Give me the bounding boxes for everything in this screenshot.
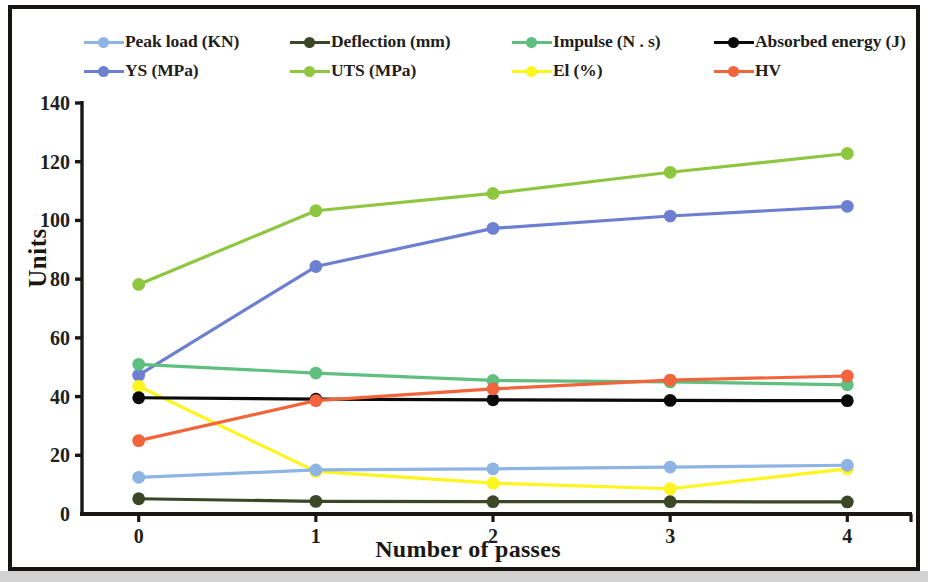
x-tick-label: 2 xyxy=(473,525,513,548)
data-point xyxy=(487,222,500,235)
page-background-strip xyxy=(0,571,928,582)
y-tick-label: 20 xyxy=(24,444,70,467)
data-point xyxy=(841,496,854,509)
x-tick-label: 4 xyxy=(827,525,867,548)
data-point xyxy=(487,495,500,508)
data-point xyxy=(132,492,145,505)
data-point xyxy=(309,394,322,407)
data-point xyxy=(132,278,145,291)
y-tick-label: 120 xyxy=(24,151,70,174)
x-tick-label: 0 xyxy=(119,525,159,548)
data-point xyxy=(841,147,854,160)
plot-area: Units Number of passes 02040608010012014… xyxy=(12,9,924,575)
data-point xyxy=(487,383,500,396)
series-ys-mpa xyxy=(132,200,853,382)
data-point xyxy=(664,166,677,179)
x-tick-label: 3 xyxy=(650,525,690,548)
data-point xyxy=(309,367,322,380)
data-point xyxy=(664,482,677,495)
series-deflection-mm xyxy=(132,492,853,508)
data-point xyxy=(664,374,677,387)
data-point xyxy=(309,495,322,508)
y-tick-label: 80 xyxy=(24,268,70,291)
data-point xyxy=(841,200,854,213)
figure-border: Peak load (KN) Deflection (mm) Impulse (… xyxy=(8,5,920,571)
data-point xyxy=(841,394,854,407)
series-line xyxy=(139,153,848,284)
y-tick-label: 40 xyxy=(24,386,70,409)
data-point xyxy=(309,464,322,477)
data-point xyxy=(664,495,677,508)
data-point xyxy=(132,380,145,393)
data-point xyxy=(664,461,677,474)
data-point xyxy=(132,391,145,404)
y-tick-label: 140 xyxy=(24,92,70,115)
data-point xyxy=(841,370,854,383)
data-point xyxy=(841,459,854,472)
data-point xyxy=(132,358,145,371)
data-point xyxy=(132,471,145,484)
data-point xyxy=(309,260,322,273)
series-uts-mpa xyxy=(132,147,853,291)
x-tick-label: 1 xyxy=(296,525,336,548)
data-point xyxy=(664,210,677,223)
y-tick-label: 60 xyxy=(24,327,70,350)
chart-svg xyxy=(12,9,924,575)
data-point xyxy=(487,477,500,490)
data-point xyxy=(487,187,500,200)
data-point xyxy=(132,434,145,447)
y-tick-label: 100 xyxy=(24,209,70,232)
y-tick-label: 0 xyxy=(24,503,70,526)
figure: Peak load (KN) Deflection (mm) Impulse (… xyxy=(0,0,928,582)
data-point xyxy=(664,394,677,407)
data-point xyxy=(487,462,500,475)
data-point xyxy=(309,204,322,217)
